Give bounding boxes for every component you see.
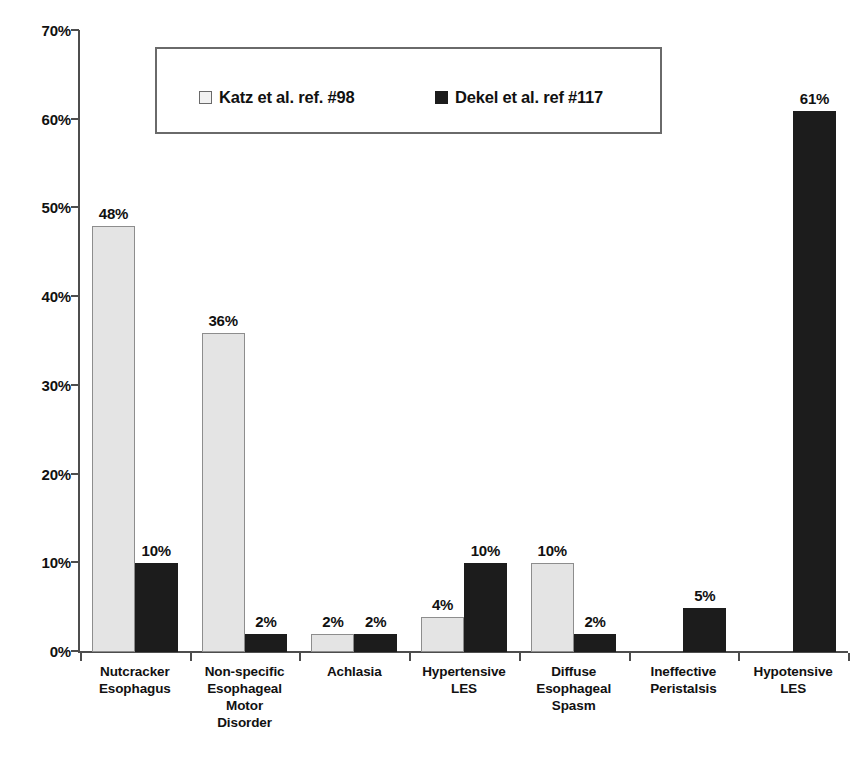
x-axis-tick-mark <box>848 653 850 661</box>
x-axis-tick-mark <box>519 653 521 661</box>
bar-value-label: 10% <box>125 542 188 559</box>
bar-dekel <box>135 563 178 652</box>
bar-katz <box>202 333 245 652</box>
x-axis-tick-mark <box>299 653 301 661</box>
y-axis-tick-mark <box>71 29 79 31</box>
bar-value-label: 10% <box>521 542 584 559</box>
y-axis-tick-label: 20% <box>17 465 71 482</box>
category-label-line: Ineffective <box>621 663 747 680</box>
bar-value-label: 2% <box>344 613 407 630</box>
chart-legend: Katz et al. ref. #98 Dekel et al. ref #1… <box>155 47 662 134</box>
bar-dekel <box>793 111 836 652</box>
y-axis-tick-mark <box>71 473 79 475</box>
y-axis-tick-label: 70% <box>17 22 71 39</box>
y-axis-labels: 0%10%20%30%40%50%60%70% <box>0 0 71 759</box>
legend-label-dekel: Dekel et al. ref #117 <box>455 88 603 107</box>
bar-dekel <box>245 634 288 652</box>
bar-dekel <box>354 634 397 652</box>
x-axis-category-label: IneffectivePeristalsis <box>621 663 747 697</box>
legend-label-katz: Katz et al. ref. #98 <box>219 88 354 107</box>
bar-value-label: 2% <box>564 613 627 630</box>
x-axis-tick-mark <box>409 653 411 661</box>
category-label-line: Spasm <box>511 697 637 714</box>
bar-value-label: 61% <box>783 90 846 107</box>
y-axis-tick-label: 60% <box>17 110 71 127</box>
legend-entry-dekel: Dekel et al. ref #117 <box>435 88 603 107</box>
x-axis-category-label: DiffuseEsophagealSpasm <box>511 663 637 714</box>
legend-swatch-katz-icon <box>199 91 212 104</box>
category-label-line: Nutcracker <box>72 663 198 680</box>
bar-dekel <box>464 563 507 652</box>
x-axis-category-labels: NutcrackerEsophagusNon-specificEsophagea… <box>80 663 848 759</box>
legend-swatch-dekel-icon <box>435 91 448 104</box>
y-axis-tick-mark <box>71 295 79 297</box>
bar-katz <box>421 617 464 652</box>
y-axis-tick-label: 10% <box>17 554 71 571</box>
y-axis-tick-mark <box>71 206 79 208</box>
x-axis-category-label: HypotensiveLES <box>730 663 856 697</box>
x-axis-category-label: Achlasia <box>291 663 417 680</box>
category-label-line: LES <box>730 680 856 697</box>
category-label-line: Motor <box>182 697 308 714</box>
category-label-line: Hypotensive <box>730 663 856 680</box>
x-axis-category-label: Non-specificEsophagealMotorDisorder <box>182 663 308 731</box>
bar-katz <box>311 634 354 652</box>
category-label-line: Esophageal <box>182 680 308 697</box>
y-axis-tick-mark <box>71 118 79 120</box>
y-axis-tick-label: 0% <box>17 643 71 660</box>
category-label-line: Peristalsis <box>621 680 747 697</box>
y-axis-tick-mark <box>71 650 79 652</box>
bar-value-label: 36% <box>192 312 255 329</box>
category-label-line: Disorder <box>182 714 308 731</box>
x-axis-tick-mark <box>80 653 82 661</box>
bar-value-label: 10% <box>454 542 517 559</box>
bar-katz <box>531 563 574 652</box>
y-axis-tick-mark <box>71 384 79 386</box>
x-axis-tick-mark <box>629 653 631 661</box>
bar-dekel <box>683 608 726 652</box>
category-label-line: Esophagus <box>72 680 198 697</box>
y-axis-tick-label: 40% <box>17 288 71 305</box>
bar-katz <box>92 226 135 652</box>
y-axis-tick-mark <box>71 561 79 563</box>
x-axis-category-label: NutcrackerEsophagus <box>72 663 198 697</box>
x-axis-tick-mark <box>190 653 192 661</box>
x-axis-category-label: HypertensiveLES <box>401 663 527 697</box>
category-label-line: Non-specific <box>182 663 308 680</box>
x-axis-tick-mark <box>738 653 740 661</box>
category-label-line: Esophageal <box>511 680 637 697</box>
bar-chart: 0%10%20%30%40%50%60%70% 48%10%36%2%2%2%4… <box>0 0 858 759</box>
category-label-line: Hypertensive <box>401 663 527 680</box>
y-axis-tick-label: 30% <box>17 376 71 393</box>
legend-entry-katz: Katz et al. ref. #98 <box>199 88 354 107</box>
bar-value-label: 5% <box>673 587 736 604</box>
bar-value-label: 48% <box>82 205 145 222</box>
category-label-line: LES <box>401 680 527 697</box>
bar-value-label: 2% <box>235 613 298 630</box>
y-axis-tick-label: 50% <box>17 199 71 216</box>
category-label-line: Achlasia <box>291 663 417 680</box>
bar-group: 61% <box>738 30 848 652</box>
category-label-line: Diffuse <box>511 663 637 680</box>
bar-dekel <box>574 634 617 652</box>
